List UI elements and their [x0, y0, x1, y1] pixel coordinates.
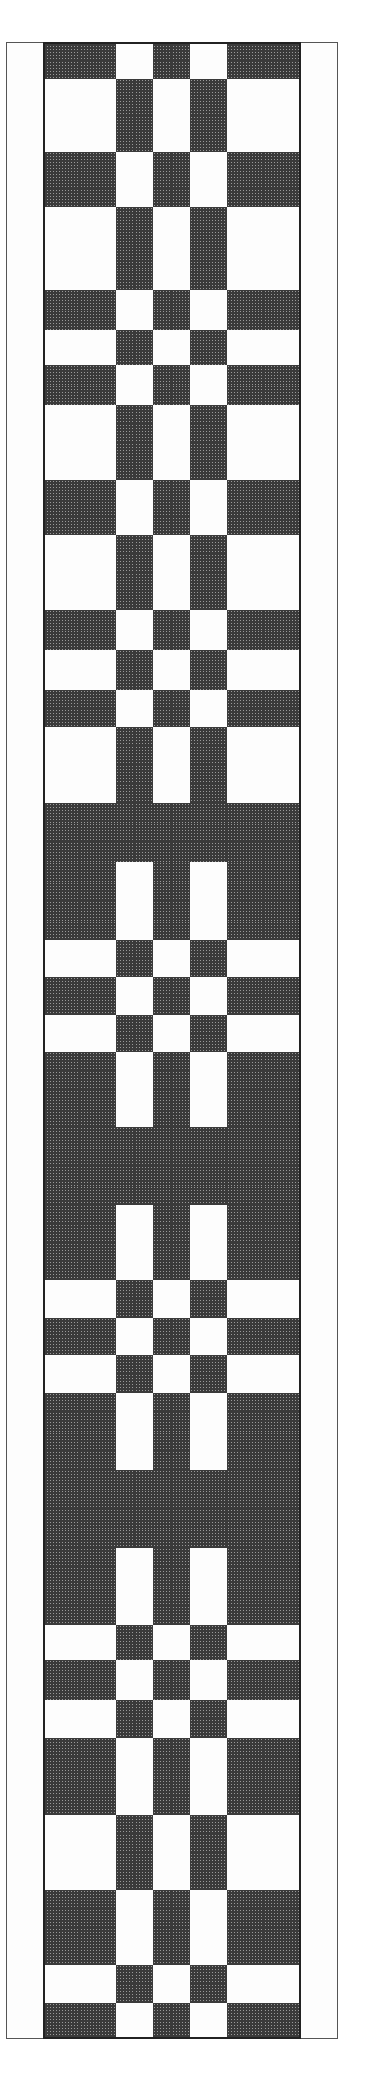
- pattern-chart: [0, 0, 366, 2091]
- grid-outline: [6, 42, 337, 2038]
